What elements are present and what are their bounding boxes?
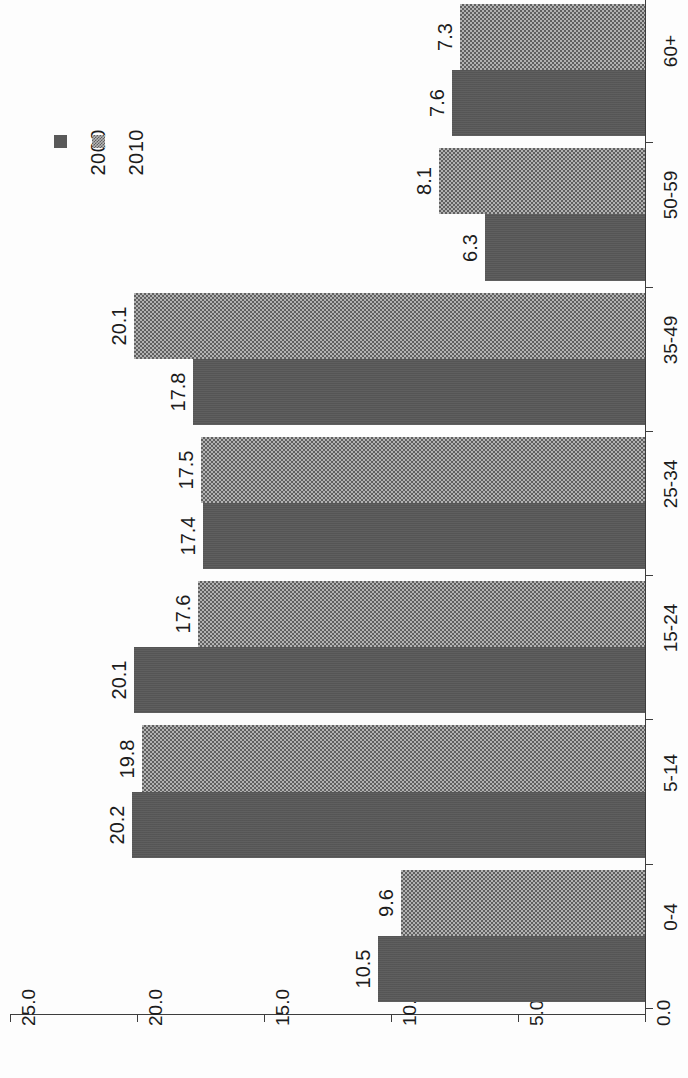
category-axis-label: 35-49	[660, 280, 682, 400]
bar-chart: 2000 2010 25.020.015.010.05.00.0 0-45-14…	[0, 0, 688, 1078]
bar-value-label: 9.6	[375, 868, 398, 938]
bar-15-24-2010	[198, 581, 645, 647]
category-axis-tick	[645, 287, 653, 288]
value-axis-tick	[137, 1014, 138, 1022]
bar-value-label: 17.4	[177, 501, 200, 571]
bar-value-label: 10.5	[352, 934, 375, 1004]
bar-value-label: 20.1	[108, 291, 131, 361]
bar-25-34-2000	[203, 503, 645, 569]
bar-60+-2000	[452, 70, 645, 136]
bar-value-label: 20.1	[108, 645, 131, 715]
category-axis-tick	[645, 864, 653, 865]
bar-value-label: 6.3	[459, 213, 482, 283]
category-axis-label: 5-14	[660, 713, 682, 833]
bar-5-14-2000	[132, 792, 645, 858]
value-axis-line	[10, 1014, 646, 1015]
bar-value-label: 19.8	[116, 724, 139, 794]
value-axis-tick	[518, 1014, 519, 1022]
bar-value-label: 8.1	[413, 146, 436, 216]
bar-60+-2010	[460, 4, 645, 70]
value-axis-tick	[645, 1014, 646, 1022]
bar-value-label: 17.5	[175, 435, 198, 505]
bar-value-label: 20.2	[106, 790, 129, 860]
value-axis-tick	[391, 1014, 392, 1022]
value-axis-tick	[10, 1014, 11, 1022]
category-axis-line	[645, 0, 646, 1014]
bar-value-label: 7.3	[434, 2, 457, 72]
category-axis-label: 0-4	[660, 857, 682, 977]
bar-35-49-2010	[134, 293, 645, 359]
category-axis-label: 15-24	[660, 568, 682, 688]
value-axis-tick	[264, 1014, 265, 1022]
bar-value-label: 7.6	[426, 68, 449, 138]
bar-value-label: 17.6	[172, 579, 195, 649]
category-axis-tick	[645, 142, 653, 143]
category-axis-tick	[645, 719, 653, 720]
value-axis-tick-label: 20.0	[145, 956, 167, 1026]
value-axis-tick-label: 15.0	[272, 956, 294, 1026]
category-axis-tick	[645, 1008, 653, 1009]
bar-0-4-2010	[401, 870, 645, 936]
category-axis-label: 60+	[660, 0, 682, 111]
bar-50-59-2000	[485, 214, 645, 280]
bar-25-34-2010	[201, 437, 646, 503]
category-axis-label: 50-59	[660, 135, 682, 255]
bar-50-59-2010	[439, 148, 645, 214]
category-axis-label: 25-34	[660, 424, 682, 544]
bar-35-49-2000	[193, 359, 645, 425]
category-axis-tick	[645, 575, 653, 576]
plot-area: 25.020.015.010.05.00.0 0-45-1415-2425-34…	[0, 0, 688, 1078]
bar-0-4-2000	[378, 936, 645, 1002]
category-axis-tick	[645, 431, 653, 432]
bar-15-24-2000	[134, 647, 645, 713]
bar-value-label: 17.8	[167, 357, 190, 427]
bar-5-14-2010	[142, 725, 645, 791]
value-axis-tick-label: 25.0	[18, 956, 40, 1026]
